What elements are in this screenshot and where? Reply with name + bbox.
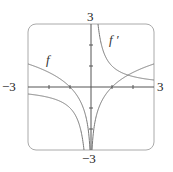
curve-fprime-right bbox=[98, 24, 154, 80]
y-min-label: −3 bbox=[82, 151, 96, 166]
x-min-label: −3 bbox=[2, 79, 16, 94]
curve-f-left bbox=[28, 64, 90, 150]
f-label: f bbox=[46, 52, 52, 67]
y-max-label: 3 bbox=[87, 9, 94, 24]
chart: −3 3 3 −3 f f ′ bbox=[0, 0, 173, 172]
curve-fprime-left bbox=[28, 94, 84, 150]
f-prime-label: f ′ bbox=[109, 32, 119, 47]
curve-f-right bbox=[92, 64, 154, 150]
x-max-label: 3 bbox=[157, 79, 164, 94]
